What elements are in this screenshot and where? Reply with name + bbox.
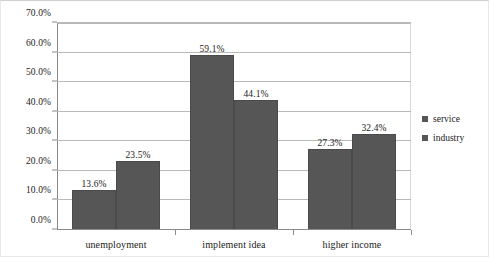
- x-axis-category-label: implement idea: [202, 239, 265, 250]
- x-axis-category-label: unemployment: [85, 239, 146, 250]
- y-axis-tick-label: 40.0%: [26, 97, 51, 107]
- bar-value-label: 13.6%: [81, 179, 106, 189]
- y-axis-tick-mark: [52, 81, 57, 82]
- bar-group: 59.1%44.1%: [190, 23, 278, 230]
- plot-area: 0.0%10.0%20.0%30.0%40.0%50.0%60.0%70.0% …: [57, 23, 411, 230]
- bar-value-label: 32.4%: [361, 123, 386, 133]
- x-axis-tick-mark: [411, 230, 412, 235]
- bar-group: 27.3%32.4%: [308, 23, 396, 230]
- legend-item-industry: industry: [422, 133, 464, 143]
- bar-service-implement-idea: 59.1%: [190, 55, 234, 230]
- bar-industry-implement-idea: 44.1%: [234, 100, 278, 230]
- bar-industry-higher-income: 32.4%: [352, 134, 396, 230]
- y-axis-tick-mark: [52, 22, 57, 23]
- y-axis-tick-mark: [52, 169, 57, 170]
- legend-swatch-icon: [422, 116, 428, 122]
- x-axis-tick-mark: [293, 230, 294, 235]
- legend-item-service: service: [422, 114, 464, 124]
- y-axis-tick-label: 50.0%: [26, 67, 51, 77]
- y-axis-tick-label: 20.0%: [26, 156, 51, 166]
- x-axis-category-label: higher income: [323, 239, 382, 250]
- y-axis-tick-label: 60.0%: [26, 38, 51, 48]
- legend-label: service: [433, 114, 460, 124]
- chart-legend: serviceindustry: [422, 114, 464, 152]
- legend-swatch-icon: [422, 135, 428, 141]
- bar-service-higher-income: 27.3%: [308, 149, 352, 230]
- y-axis-tick-label: 10.0%: [26, 185, 51, 195]
- bar-service-unemployment: 13.6%: [72, 190, 116, 230]
- x-axis-tick-mark: [175, 230, 176, 235]
- bar-value-label: 27.3%: [317, 138, 342, 148]
- y-axis-tick-mark: [52, 110, 57, 111]
- legend-label: industry: [433, 133, 464, 143]
- x-axis-line: [57, 229, 411, 230]
- bar-value-label: 44.1%: [243, 89, 268, 99]
- bar-group: 13.6%23.5%: [72, 23, 160, 230]
- bar-value-label: 59.1%: [199, 44, 224, 54]
- y-axis-tick-mark: [52, 51, 57, 52]
- y-axis-tick-label: 70.0%: [26, 8, 51, 18]
- y-axis-tick-mark: [52, 199, 57, 200]
- y-axis-tick-label: 0.0%: [31, 215, 51, 225]
- y-axis-tick-mark: [52, 140, 57, 141]
- bar-industry-unemployment: 23.5%: [116, 161, 160, 230]
- bar-chart: 0.0%10.0%20.0%30.0%40.0%50.0%60.0%70.0% …: [0, 0, 489, 257]
- y-axis-tick-label: 30.0%: [26, 126, 51, 136]
- bar-value-label: 23.5%: [125, 150, 150, 160]
